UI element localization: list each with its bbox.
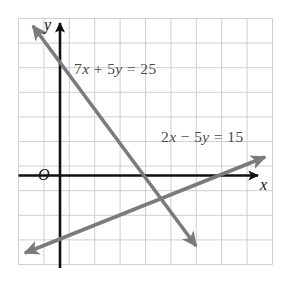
eq1-constant: 25	[140, 60, 156, 77]
origin-label: O	[38, 166, 50, 184]
equation-label-line1: 7x + 5y = 25	[74, 60, 157, 78]
eq1-equals: =	[123, 60, 141, 77]
eq1-variable-y: y	[115, 60, 122, 77]
eq2-operator: −	[176, 128, 194, 145]
x-axis-label: x	[260, 176, 267, 194]
equation-label-line2: 2x − 5y = 15	[161, 128, 244, 146]
eq2-equals: =	[210, 128, 228, 145]
y-axis-label: y	[44, 16, 51, 34]
eq2-variable-y: y	[202, 128, 209, 145]
graph-figure: 7x + 5y = 25 2x − 5y = 15 O x y	[0, 0, 285, 286]
eq2-coefficient-a: 2	[161, 128, 169, 145]
eq1-operator: +	[89, 60, 107, 77]
eq2-constant: 15	[227, 128, 243, 145]
eq1-coefficient-a: 7	[74, 60, 82, 77]
